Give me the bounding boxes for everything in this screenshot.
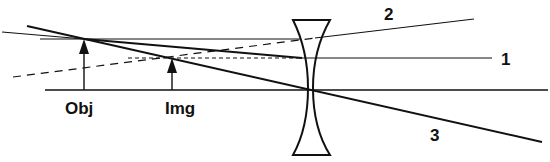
object-arrow-head (79, 39, 89, 54)
object-label: Obj (65, 100, 93, 117)
ray-1-to-lens (84, 39, 302, 58)
ray-2-label: 2 (384, 6, 393, 23)
ray-1-label: 1 (501, 51, 510, 68)
ray-3 (27, 26, 542, 142)
ray-diagram (0, 0, 550, 162)
ray-2-refracted (315, 19, 474, 38)
image-label: Img (165, 100, 195, 117)
ray-3-label: 3 (430, 127, 439, 144)
